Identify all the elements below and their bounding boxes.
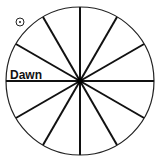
center-hub [77,78,83,84]
dawn-label: Dawn [10,68,42,82]
sun-symbol-icon [16,18,24,26]
